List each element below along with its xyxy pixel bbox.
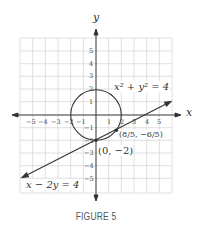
- x-tick: −2: [64, 118, 74, 126]
- point-a-label: (0, −2): [98, 145, 133, 156]
- x-tick: −3: [51, 118, 61, 126]
- axes: [12, 29, 181, 201]
- line-equation-label: x − 2y = 4: [25, 179, 81, 190]
- figure-caption: FIGURE 5: [14, 211, 177, 222]
- x-tick: −4: [38, 118, 48, 126]
- x-tick: 4: [145, 118, 149, 126]
- y-axis-up-arrow-icon: [94, 29, 98, 35]
- y-tick: 3: [89, 72, 93, 80]
- x-axis-left-arrow-icon: [12, 113, 18, 117]
- y-tick: −5: [84, 175, 94, 183]
- x-tick: 5: [157, 118, 161, 126]
- y-tick: −1: [84, 124, 94, 132]
- x-tick: 2: [120, 118, 124, 126]
- x-axis-right-arrow-icon: [175, 113, 181, 117]
- x-axis-label: x: [186, 106, 192, 119]
- point-b-label: (8/5, −6/5): [119, 130, 163, 139]
- x-tick: 3: [132, 118, 136, 126]
- y-tick: −4: [84, 162, 94, 170]
- y-tick: 4: [89, 60, 93, 68]
- figure-graph: [0, 0, 207, 234]
- point-a: [94, 139, 98, 143]
- point-b: [115, 128, 119, 132]
- y-tick: 1: [89, 98, 93, 106]
- y-axis-label: y: [93, 11, 99, 24]
- line-arrow-left-icon: [22, 173, 29, 178]
- y-axis-down-arrow-icon: [94, 195, 98, 201]
- y-tick: −3: [84, 149, 94, 157]
- circle-equation-label: x² + y² = 4: [113, 81, 170, 92]
- line-arrow-icon: [165, 102, 172, 107]
- x-tick: −5: [26, 118, 36, 126]
- x-tick: 1: [107, 118, 111, 126]
- y-tick: 2: [89, 85, 93, 93]
- y-tick: −2: [84, 137, 94, 145]
- y-tick: 5: [89, 47, 93, 55]
